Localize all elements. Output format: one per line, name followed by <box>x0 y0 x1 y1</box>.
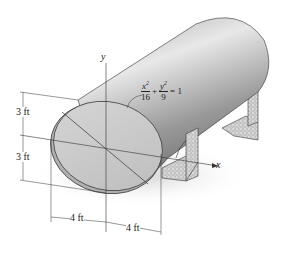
equals-one: = 1 <box>170 86 182 96</box>
x-axis-label: x <box>216 160 220 170</box>
dimension-left-4ft: 4 ft <box>70 213 84 223</box>
x-fraction: x2 16 <box>141 80 150 102</box>
y-axis-label: y <box>101 52 105 62</box>
dimension-right-4ft: 4 ft <box>126 223 140 233</box>
dimension-upper-3ft: 3 ft <box>16 107 30 117</box>
y-fraction: y2 9 <box>159 80 168 102</box>
dimension-lower-3ft: 3 ft <box>16 152 30 162</box>
ellipse-equation: x2 16 + y2 9 = 1 <box>141 80 182 102</box>
tank-diagram <box>0 0 285 254</box>
plus-sign: + <box>152 86 157 96</box>
